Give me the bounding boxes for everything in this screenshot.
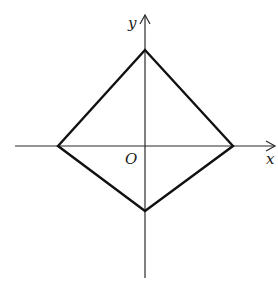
origin-label: O <box>125 150 137 168</box>
y-axis-label: y <box>127 14 137 32</box>
coordinate-diagram: y x O <box>0 0 278 287</box>
x-axis-label: x <box>266 150 275 168</box>
